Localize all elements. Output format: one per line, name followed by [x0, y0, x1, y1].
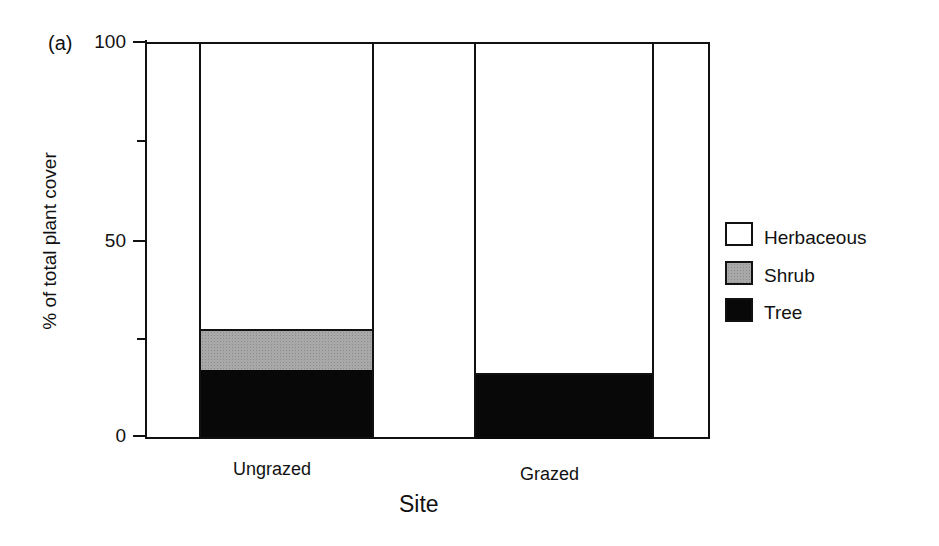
y-axis [145, 40, 147, 438]
y-tick-label-50: 50 [66, 230, 126, 252]
x-label-grazed: Grazed [520, 464, 579, 485]
x-label-ungrazed: Ungrazed [233, 459, 311, 480]
y-tick-label-100: 100 [66, 31, 126, 53]
bar-ungrazed-shrub [201, 329, 372, 372]
bar-grazed [474, 42, 654, 439]
y-tick-50 [133, 240, 145, 242]
y-tick-0 [133, 435, 145, 437]
bar-ungrazed-tree [201, 370, 372, 437]
y-tick-25 [137, 338, 145, 340]
y-tick-75 [137, 140, 145, 142]
bar-grazed-tree [476, 373, 652, 439]
legend-swatch-tree [725, 298, 753, 322]
legend-swatch-shrub [725, 261, 753, 285]
legend-swatch-herbaceous [725, 222, 753, 246]
x-axis-title: Site [399, 491, 439, 518]
y-axis-title: % of total plant cover [39, 141, 61, 341]
y-tick-label-0: 0 [66, 425, 126, 447]
y-tick-100 [133, 41, 145, 43]
legend-label-tree: Tree [764, 302, 802, 324]
bar-ungrazed [199, 42, 374, 437]
legend-label-herbaceous: Herbaceous [764, 227, 866, 249]
legend-label-shrub: Shrub [764, 265, 815, 287]
